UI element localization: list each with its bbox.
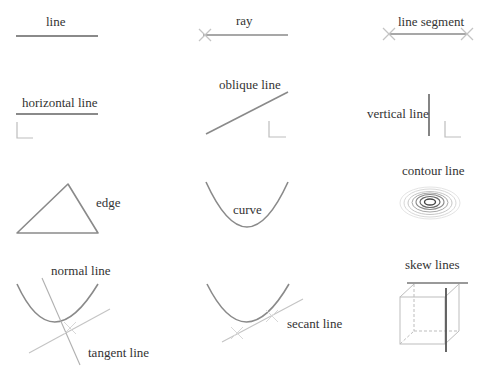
label-line: line [46, 15, 66, 28]
label-tangent-line: tangent line [88, 346, 149, 359]
label-normal-line: normal line [51, 264, 111, 277]
vertical-line-figure [429, 94, 461, 137]
label-edge: edge [96, 196, 121, 209]
label-contour-line: contour line [402, 164, 464, 177]
secant-figure [207, 284, 303, 342]
contour-figure [400, 187, 460, 219]
ray-figure [199, 29, 288, 41]
label-secant-line: secant line [287, 317, 342, 330]
line-types-diagram [0, 0, 487, 369]
label-oblique-line: oblique line [219, 78, 281, 91]
line-segment-figure [383, 28, 473, 40]
label-skew-lines: skew lines [405, 258, 460, 271]
label-vertical-line: vertical line [367, 107, 429, 120]
label-horizontal-line: horizontal line [22, 96, 97, 109]
oblique-line-figure [206, 92, 288, 137]
label-curve: curve [233, 203, 262, 216]
horizontal-line-figure [16, 114, 98, 138]
skew-lines-figure [400, 283, 468, 352]
label-ray: ray [236, 14, 253, 27]
label-line-segment: line segment [398, 15, 464, 28]
triangle-figure [17, 184, 98, 233]
